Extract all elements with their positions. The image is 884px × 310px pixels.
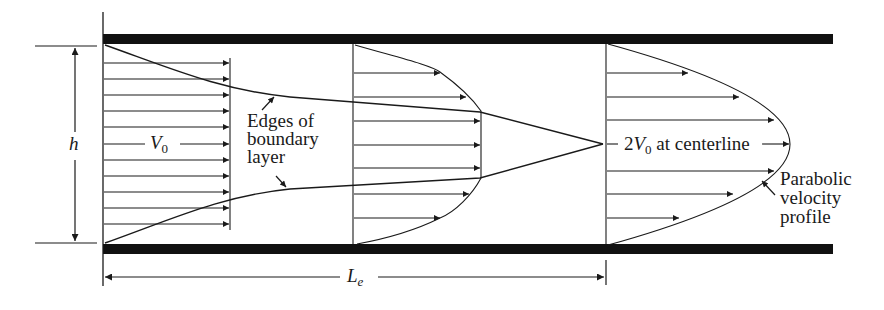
bl-pointer-lower (276, 176, 286, 187)
boundary-layer-edges (105, 45, 603, 243)
parabolic-pointer (762, 181, 775, 195)
entrance-length-subscript: e (358, 274, 364, 289)
boundary-layer-line3: layer (247, 148, 319, 166)
inlet-velocity-label: V0 (150, 133, 168, 159)
centerline-velocity-label: 2V0 at centerline (622, 134, 752, 160)
parabolic-line2: velocity (780, 188, 852, 207)
top-wall (103, 34, 833, 44)
centerline-prefix: 2 (624, 133, 634, 154)
parabolic-line3: profile (780, 207, 852, 226)
entrance-flow-diagram: h V0 Edges of boundary layer 2V0 at cent… (0, 0, 884, 310)
entrance-length-label: Le (347, 266, 363, 292)
parabolic-line1: Parabolic (780, 169, 852, 188)
entrance-length-symbol: L (347, 265, 358, 286)
boundary-layer-label: Edges of boundary layer (247, 112, 319, 166)
height-dimension (35, 46, 97, 243)
parabolic-profile-label: Parabolic velocity profile (780, 169, 852, 226)
developing-velocity-profile (353, 44, 481, 244)
inlet-velocity-symbol: V (150, 132, 162, 153)
height-label: h (69, 134, 79, 154)
bottom-wall (103, 244, 833, 254)
centerline-suffix: at centerline (652, 133, 750, 154)
inlet-velocity-subscript: 0 (162, 141, 169, 156)
centerline-velocity-symbol: V (634, 133, 646, 154)
bl-pointer-upper (262, 97, 274, 110)
